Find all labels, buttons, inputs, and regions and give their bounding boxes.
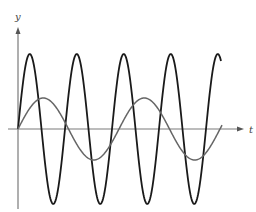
y-axis-label: y — [14, 11, 21, 22]
x-axis-arrow-icon — [237, 127, 244, 132]
sine-wave-chart: t y — [0, 0, 256, 212]
y-axis-arrow-icon — [16, 27, 21, 34]
x-axis-label: t — [249, 124, 254, 135]
axes: t y — [8, 11, 254, 209]
